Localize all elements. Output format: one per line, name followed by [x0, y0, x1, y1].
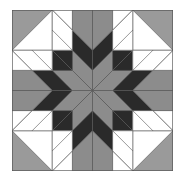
quilt-pattern — [12, 10, 173, 171]
quilt-block — [12, 10, 173, 171]
